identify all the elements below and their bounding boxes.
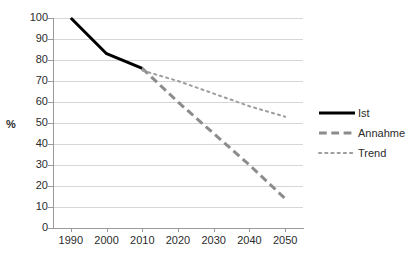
chart-legend: IstAnnahmeTrend	[318, 103, 408, 163]
legend-label: Ist	[358, 107, 370, 119]
x-axis-tick	[178, 228, 179, 232]
legend-label: Trend	[358, 147, 386, 159]
y-axis-tick	[48, 102, 53, 103]
x-axis-tick	[142, 228, 143, 232]
legend-item-ist[interactable]: Ist	[318, 103, 408, 123]
legend-swatch-trend-icon	[318, 147, 356, 159]
series-line-annahme	[142, 68, 285, 198]
y-axis-tick	[48, 123, 53, 124]
x-axis-tick	[107, 228, 108, 232]
y-axis-tick	[48, 144, 53, 145]
legend-swatch-ist-icon	[318, 107, 356, 119]
legend-item-trend[interactable]: Trend	[318, 143, 408, 163]
chart-container: 0102030405060708090100 % 199020002010202…	[0, 0, 410, 259]
y-axis-tick	[48, 81, 53, 82]
y-axis-tick	[48, 60, 53, 61]
legend-label: Annahme	[358, 127, 405, 139]
y-axis-tick	[48, 228, 53, 229]
x-axis-tick	[285, 228, 286, 232]
y-axis-tick	[48, 186, 53, 187]
y-axis-tick	[48, 165, 53, 166]
series-line-ist	[71, 18, 142, 68]
series-line-trend	[142, 71, 285, 117]
legend-item-annahme[interactable]: Annahme	[318, 123, 408, 143]
y-axis-tick	[48, 207, 53, 208]
x-axis-tick	[214, 228, 215, 232]
x-axis-tick	[71, 228, 72, 232]
y-axis-tick	[48, 39, 53, 40]
x-axis-tick	[249, 228, 250, 232]
y-axis-tick	[48, 18, 53, 19]
legend-swatch-annahme-icon	[318, 127, 356, 139]
